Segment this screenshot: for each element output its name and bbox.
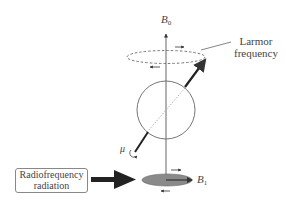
rf-arrow-head-icon xyxy=(114,170,136,189)
mu-label: μ xyxy=(120,143,125,154)
b1-label: B1 xyxy=(197,174,207,189)
larmor-line1: Larmor xyxy=(234,36,278,48)
b1-symbol: B xyxy=(197,173,204,185)
magnetic-moment-tail xyxy=(135,132,148,152)
rf-arrow-shaft xyxy=(91,177,117,182)
magnetic-moment-arrow xyxy=(185,60,205,87)
b0-label: B0 xyxy=(161,14,171,29)
rf-line2: radiation xyxy=(16,181,87,192)
rf-line1: Radiofrequency xyxy=(16,170,87,181)
b0-subscript: 0 xyxy=(168,19,172,27)
b1-subscript: 1 xyxy=(204,179,208,187)
mu-symbol: μ xyxy=(120,143,125,154)
larmor-leader-line xyxy=(201,42,231,50)
larmor-line2: frequency xyxy=(234,48,278,60)
b0-symbol: B xyxy=(161,13,168,25)
radiofrequency-box: Radiofrequency radiation xyxy=(15,168,88,193)
larmor-label: Larmor frequency xyxy=(234,36,278,59)
